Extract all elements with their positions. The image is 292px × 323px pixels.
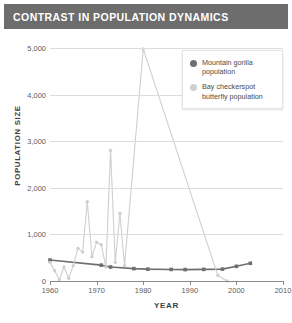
legend-item-2[interactable]: Bay checkerspot butterfly population [190, 82, 276, 100]
x-tick-mark [50, 281, 51, 285]
data-point [123, 264, 126, 267]
data-point [169, 268, 173, 272]
data-point [109, 149, 112, 152]
data-point [202, 268, 206, 272]
legend-item-label: Bay checkerspot butterfly population [202, 82, 276, 100]
x-tick-label: 2000 [228, 286, 245, 295]
data-point [146, 267, 150, 271]
legend-item-label: Mountain gorilla population [202, 58, 276, 76]
x-tick-label: 1980 [135, 286, 152, 295]
data-point [99, 263, 103, 267]
data-point [249, 261, 253, 265]
data-point [48, 261, 51, 264]
x-tick-mark [283, 281, 284, 285]
gridline [50, 48, 283, 49]
chart-figure: POPULATION SIZE 01,0002,0003,0004,0005,0… [0, 29, 292, 323]
data-point [221, 267, 225, 271]
chart-legend: Mountain gorilla populationBay checkersp… [182, 50, 283, 109]
data-point [100, 243, 103, 246]
y-tick-label: 3,000 [27, 137, 46, 146]
data-point [67, 277, 70, 280]
data-point [183, 268, 187, 272]
x-tick-mark [236, 281, 237, 285]
page-title: CONTRAST IN POPULATION DYNAMICS [13, 11, 229, 23]
data-point [72, 264, 75, 267]
x-tick-label: 1970 [88, 286, 105, 295]
data-point [62, 265, 65, 268]
y-tick-label: 5,000 [27, 44, 46, 53]
series-1 [48, 258, 252, 271]
x-tick-mark [190, 281, 191, 285]
y-tick-label: 4,000 [27, 90, 46, 99]
data-point [216, 274, 219, 277]
legend-item-1[interactable]: Mountain gorilla population [190, 58, 276, 76]
y-tick-label: 1,000 [27, 230, 46, 239]
x-tick-label: 1990 [181, 286, 198, 295]
data-point [104, 265, 107, 268]
data-point [109, 265, 113, 269]
x-tick-label: 1960 [42, 286, 59, 295]
gridline [50, 141, 283, 142]
data-point [76, 247, 79, 250]
data-point [86, 200, 89, 203]
x-axis-title: YEAR [50, 301, 283, 310]
data-point [95, 241, 98, 244]
data-point [235, 265, 239, 269]
data-point [90, 255, 93, 258]
circle-marker [190, 60, 197, 67]
x-tick-mark [143, 281, 144, 285]
y-tick-label: 2,000 [27, 183, 46, 192]
circle-marker [190, 84, 197, 91]
x-tick-mark [97, 281, 98, 285]
data-point [81, 250, 84, 253]
x-axis-line [50, 281, 283, 282]
gridline [50, 234, 283, 235]
data-point [118, 212, 121, 215]
gridline [50, 188, 283, 189]
y-axis-ticks: 01,0002,0003,0004,0005,000 [0, 29, 46, 323]
chart-title-banner: CONTRAST IN POPULATION DYNAMICS [4, 4, 288, 29]
y-tick-label: 0 [42, 277, 46, 286]
x-tick-label: 2010 [275, 286, 292, 295]
series-line [50, 260, 250, 270]
data-point [114, 261, 117, 264]
data-point [53, 269, 56, 272]
data-point [132, 267, 136, 271]
